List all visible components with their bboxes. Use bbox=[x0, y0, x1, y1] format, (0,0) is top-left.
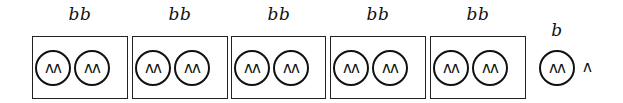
group-5-circle-1: ʌʌ bbox=[433, 50, 469, 86]
group-2-circle-2: ʌʌ bbox=[174, 50, 210, 86]
group-1-circle-2: ʌʌ bbox=[74, 50, 110, 86]
group-2-circle-1: ʌʌ bbox=[135, 50, 171, 86]
group-5-circle-2: ʌʌ bbox=[472, 50, 508, 86]
group-4-circle-2: ʌʌ bbox=[372, 50, 408, 86]
remainder-label: b bbox=[509, 20, 605, 40]
group-3-circle-2: ʌʌ bbox=[273, 50, 309, 86]
remainder-circle: ʌʌ bbox=[539, 50, 575, 86]
group-2-label: bb bbox=[132, 4, 228, 24]
group-4-label: bb bbox=[330, 4, 426, 24]
group-1-circle-1: ʌʌ bbox=[35, 50, 71, 86]
group-3-label: bb bbox=[231, 4, 327, 24]
group-4-circle-1: ʌʌ bbox=[333, 50, 369, 86]
group-3-circle-1: ʌʌ bbox=[234, 50, 270, 86]
group-1-label: bb bbox=[32, 4, 128, 24]
trailing-caret: ʌ bbox=[583, 58, 592, 76]
